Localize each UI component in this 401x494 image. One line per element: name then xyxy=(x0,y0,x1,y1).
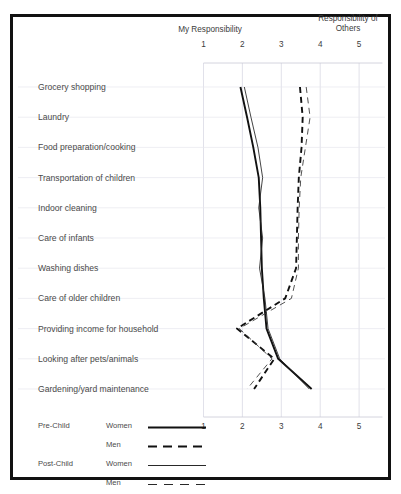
category-label-providing-income-for-household: Providing income for household xyxy=(38,324,158,334)
x-tick-bottom-5: 5 xyxy=(351,422,367,431)
legend-row: Men xyxy=(38,475,213,494)
legend-entry-label-women: Women xyxy=(106,459,132,468)
x-tick-bottom-3: 3 xyxy=(273,422,289,431)
category-label-washing-dishes: Washing dishes xyxy=(38,263,98,273)
category-label-grocery-shopping: Grocery shopping xyxy=(38,82,106,92)
legend-entry-label-men: Men xyxy=(106,440,121,449)
x-tick-top-1: 1 xyxy=(196,40,212,49)
category-label-transportation-of-children: Transportation of children xyxy=(38,173,135,183)
chart-page: My Responsibility Responsibility of Othe… xyxy=(0,0,401,494)
legend-swatch-solid-thin xyxy=(148,462,206,469)
axis-title-responsibility-of-others: Responsibility of Others xyxy=(305,14,391,33)
category-label-care-of-older-children: Care of older children xyxy=(38,293,120,303)
category-label-indoor-cleaning: Indoor cleaning xyxy=(38,203,97,213)
x-tick-bottom-2: 2 xyxy=(234,422,250,431)
legend-group-label-pre-child: Pre-Child xyxy=(38,421,70,430)
x-tick-top-5: 5 xyxy=(351,40,367,49)
legend-swatch-solid-thick xyxy=(148,424,206,431)
x-tick-bottom-4: 4 xyxy=(312,422,328,431)
category-label-food-preparation-cooking: Food preparation/cooking xyxy=(38,142,135,152)
x-tick-top-4: 4 xyxy=(312,40,328,49)
legend-swatch-dashed-thick xyxy=(148,443,206,450)
legend-group-label-post-child: Post-Child xyxy=(38,459,73,468)
category-label-care-of-infants: Care of infants xyxy=(38,233,94,243)
legend-swatch-dashed-thin xyxy=(148,481,206,488)
legend-entry-label-women: Women xyxy=(106,421,132,430)
category-label-laundry: Laundry xyxy=(38,112,69,122)
x-tick-top-3: 3 xyxy=(273,40,289,49)
legend-row: Pre-ChildWomen xyxy=(38,418,213,437)
legend-row: Men xyxy=(38,437,213,456)
category-label-looking-after-pets-animals: Looking after pets/animals xyxy=(38,354,138,364)
chart-legend: Pre-ChildWomenMenPost-ChildWomenMen xyxy=(38,418,213,494)
legend-entry-label-men: Men xyxy=(106,478,121,487)
axis-title-my-responsibility: My Responsibility xyxy=(165,25,255,35)
x-tick-top-2: 2 xyxy=(234,40,250,49)
category-label-gardening-yard-maintenance: Gardening/yard maintenance xyxy=(38,384,149,394)
legend-row: Post-ChildWomen xyxy=(38,456,213,475)
